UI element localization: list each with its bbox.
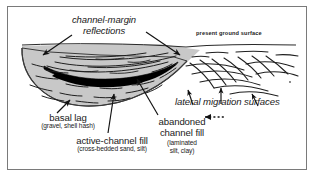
lms-h2 <box>192 71 252 77</box>
lms-h4 <box>214 86 268 91</box>
label-basal-lag: basal lag (gravel, shell hash) <box>30 113 106 130</box>
abandoned-subtitle-line2: silt, clay) <box>146 147 218 154</box>
label-lateral-migration-surfaces: lateral migration surfaces <box>175 97 280 107</box>
present-ground-surface-line <box>186 44 296 47</box>
lms-top-dash-2 <box>236 51 268 52</box>
lms-1 <box>190 63 214 88</box>
label-channel-margin-reflections: channel-margin reflections <box>62 14 146 36</box>
channel-margin-line2: reflections <box>83 25 125 36</box>
label-abandoned-channel-fill: abandoned channel fill (laminated silt, … <box>146 117 218 155</box>
lms-h3 <box>200 79 260 85</box>
lms-top-dash-3 <box>276 55 298 56</box>
lms-top-dash-4 <box>192 56 209 57</box>
abandoned-title-line2: channel fill <box>146 128 218 139</box>
figure-root: channel-margin reflections present groun… <box>0 0 316 178</box>
lms-h6 <box>256 72 298 76</box>
label-present-ground-surface: present ground surface <box>196 31 262 37</box>
channel-margin-line1: channel-margin <box>72 14 136 25</box>
abandoned-title-line1: abandoned <box>146 117 218 128</box>
lateral-migration-surface-lines <box>186 51 298 96</box>
right-edge-dot <box>289 81 291 83</box>
lms-h5 <box>246 62 294 67</box>
abandoned-subtitle-line1: (laminated <box>146 139 218 146</box>
basal-lag-subtitle: (gravel, shell hash) <box>30 123 106 130</box>
